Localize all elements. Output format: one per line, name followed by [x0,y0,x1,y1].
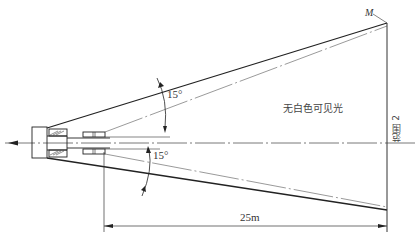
lamp-housing [32,127,110,158]
range-label: 范围 2 [392,115,401,142]
point-m-label: M [365,8,373,18]
beam-lower-edge [47,158,387,210]
beam-upper-inner [105,26,387,132]
beam-diagram [0,0,418,245]
angle-label-lower: 15° [153,150,168,161]
beam-description-label: 无白色可见光 [283,104,343,114]
distance-label: 25m [240,212,260,223]
direction-arrow-icon [8,141,18,146]
angle-label-upper: 15° [167,89,182,100]
